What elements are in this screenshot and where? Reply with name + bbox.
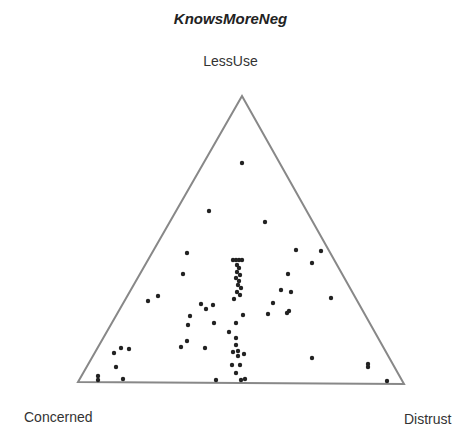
data-point (319, 249, 323, 253)
data-point (207, 209, 211, 213)
data-point (310, 261, 314, 265)
data-point (310, 356, 314, 360)
data-point (243, 377, 247, 381)
ternary-triangle (78, 96, 404, 384)
data-points (96, 161, 389, 383)
data-point (238, 363, 242, 367)
data-point (112, 351, 116, 355)
data-point (266, 312, 270, 316)
data-point (234, 343, 238, 347)
data-point (199, 302, 203, 306)
data-point (234, 336, 238, 340)
data-point (239, 286, 243, 290)
data-point (238, 273, 242, 277)
data-point (114, 365, 118, 369)
data-point (96, 378, 100, 382)
data-point (279, 288, 283, 292)
data-point (127, 347, 131, 351)
data-point (181, 272, 185, 276)
data-point (214, 378, 218, 382)
data-point (240, 161, 244, 165)
data-point (203, 346, 207, 350)
data-point (366, 365, 370, 369)
data-point (121, 377, 125, 381)
data-point (156, 294, 160, 298)
data-point (237, 266, 241, 270)
data-point (271, 301, 275, 305)
data-point (236, 354, 240, 358)
data-point (232, 297, 236, 301)
ternary-plot (0, 0, 461, 436)
data-point (286, 272, 290, 276)
data-point (294, 248, 298, 252)
data-point (239, 378, 243, 382)
data-point (211, 303, 215, 307)
data-point (385, 379, 389, 383)
data-point (289, 290, 293, 294)
data-point (227, 330, 231, 334)
data-point (188, 314, 192, 318)
data-point (240, 258, 244, 262)
data-point (234, 371, 238, 375)
data-point (263, 220, 267, 224)
data-point (185, 251, 189, 255)
data-point (119, 346, 123, 350)
data-point (237, 279, 241, 283)
data-point (96, 374, 100, 378)
data-point (285, 311, 289, 315)
data-point (241, 313, 245, 317)
data-point (186, 323, 190, 327)
data-point (236, 349, 240, 353)
data-point (238, 293, 242, 297)
data-point (212, 321, 216, 325)
data-point (179, 345, 183, 349)
data-point (185, 339, 189, 343)
data-point (231, 350, 235, 354)
data-point (329, 296, 333, 300)
data-point (146, 299, 150, 303)
data-point (242, 352, 246, 356)
data-point (230, 363, 234, 367)
data-point (204, 307, 208, 311)
data-point (234, 321, 238, 325)
